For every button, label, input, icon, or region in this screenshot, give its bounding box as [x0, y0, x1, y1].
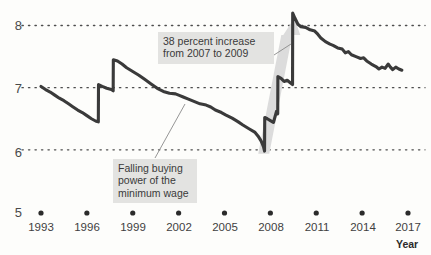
annotation-increase-callout: 38 percent increase from 2007 to 2009: [158, 32, 274, 64]
x-tick-1999: 1999: [113, 221, 153, 233]
x-tick-2017: 2017: [388, 221, 428, 233]
x-tick-1996: 1996: [67, 221, 107, 233]
x-tick-dot: [38, 210, 43, 215]
annotation-falling-callout: Falling buying power of the minimum wage: [113, 159, 197, 203]
x-tick-dot: [314, 210, 319, 215]
x-tick-1993: 1993: [21, 221, 61, 233]
x-tick-dot: [360, 210, 365, 215]
x-axis-title: Year: [396, 238, 418, 250]
x-tick-dot: [405, 210, 410, 215]
leader-line: [155, 104, 185, 158]
x-tick-2002: 2002: [159, 221, 199, 233]
x-tick-dot: [222, 210, 227, 215]
x-tick-2011: 2011: [297, 221, 337, 233]
x-axis-tick-dots: [38, 210, 410, 215]
x-tick-dot: [130, 210, 135, 215]
y-tick-5: 5: [4, 205, 22, 220]
x-tick-dot: [268, 210, 273, 215]
x-tick-2005: 2005: [205, 221, 245, 233]
x-tick-2014: 2014: [343, 221, 383, 233]
y-tick-8: 8: [4, 18, 22, 33]
chart-container: 8 7 6 5 1993 1996 1999 2002 2005 2008 20…: [0, 0, 431, 255]
y-tick-6: 6: [4, 145, 22, 160]
x-tick-dot: [176, 210, 181, 215]
x-tick-2008: 2008: [251, 221, 291, 233]
y-tick-7: 7: [4, 81, 22, 96]
x-tick-dot: [84, 210, 89, 215]
